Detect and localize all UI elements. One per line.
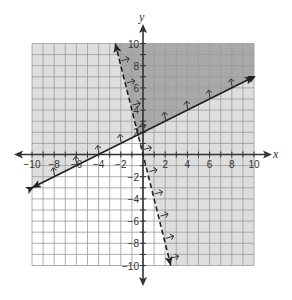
y-tick-label: −2 bbox=[128, 172, 140, 183]
x-tick-label: 6 bbox=[207, 159, 213, 170]
inequality-graph: −10−8−6−4−2246810−10−8−6−4−2246810 x y bbox=[0, 0, 292, 300]
x-tick-label: 10 bbox=[248, 159, 260, 170]
x-tick-label: −2 bbox=[115, 159, 127, 170]
y-tick-label: −8 bbox=[128, 238, 140, 249]
x-tick-label: 4 bbox=[185, 159, 191, 170]
y-tick-label: 10 bbox=[128, 39, 140, 50]
y-tick-label: 8 bbox=[133, 61, 139, 72]
x-tick-label: −8 bbox=[48, 159, 60, 170]
x-tick-label: −4 bbox=[93, 159, 105, 170]
y-tick-label: −6 bbox=[128, 216, 140, 227]
y-tick-label: −4 bbox=[128, 194, 140, 205]
x-tick-label: −10 bbox=[24, 159, 41, 170]
y-axis-label: y bbox=[138, 10, 145, 24]
x-axis-label: x bbox=[272, 147, 279, 161]
y-tick-label: −10 bbox=[122, 261, 139, 272]
y-tick-label: 6 bbox=[133, 83, 139, 94]
x-tick-label: 2 bbox=[162, 159, 168, 170]
x-tick-label: 8 bbox=[229, 159, 235, 170]
